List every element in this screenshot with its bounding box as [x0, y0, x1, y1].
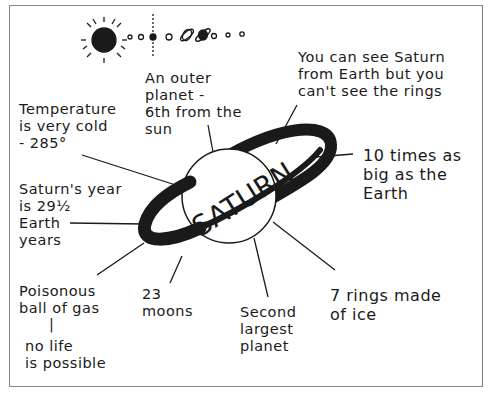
- venus-icon: [139, 35, 144, 40]
- fact-outer-planet: An outer planet - 6th from the sun: [145, 70, 242, 138]
- jupiter-icon: [179, 28, 195, 43]
- fact-temperature: Temperature is very cold - 285°: [19, 101, 116, 152]
- pluto-icon: [240, 32, 244, 36]
- line-largest: [254, 238, 268, 297]
- line-moons: [170, 256, 182, 283]
- fact-visible-from-earth: You can see Saturn from Earth but you ca…: [298, 49, 445, 100]
- neptune-icon: [226, 33, 230, 37]
- saturn-mini-icon: [194, 27, 212, 43]
- fact-moons: 23 moons: [142, 286, 193, 320]
- fact-second-largest: Second largest planet: [240, 304, 296, 355]
- earth-icon: [150, 34, 156, 40]
- sun-icon: [81, 17, 127, 63]
- mercury-icon: [128, 35, 132, 39]
- fact-size: 10 times as big as the Earth: [363, 146, 462, 203]
- fact-no-life: no life is possible: [25, 338, 106, 372]
- solar-system-strip: [81, 14, 244, 63]
- line-rings: [273, 222, 335, 270]
- fact-rings: 7 rings made of ice: [330, 286, 441, 324]
- mars-icon: [166, 34, 172, 40]
- fact-year: Saturn's year is 29½ Earth years: [19, 181, 122, 249]
- uranus-icon: [212, 34, 217, 39]
- fact-poisonous-gas: Poisonous ball of gas: [19, 283, 100, 317]
- fact-separator: |: [49, 316, 54, 333]
